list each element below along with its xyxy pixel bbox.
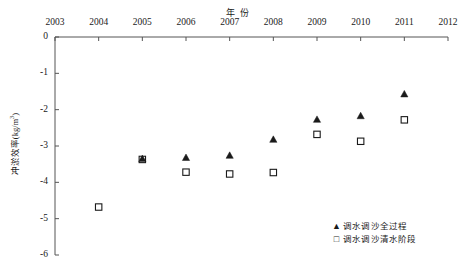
- legend-label-full-process: 调水调沙全过程: [343, 220, 407, 233]
- legend-item-full-process: ▲ 调水调沙全过程: [330, 220, 417, 233]
- data-point-marker-square: [401, 117, 407, 123]
- legend-item-clear-water-stage: □ 调水调沙清水阶段: [330, 233, 417, 246]
- data-point-marker-triangle: [182, 154, 189, 160]
- chart-legend: ▲ 调水调沙全过程 □ 调水调沙清水阶段: [330, 220, 417, 246]
- data-point-marker-triangle: [357, 112, 364, 118]
- data-point-marker-triangle: [270, 136, 277, 142]
- filled-triangle-icon: ▲: [330, 220, 343, 233]
- data-point-marker-triangle: [226, 152, 233, 158]
- data-point-marker-square: [226, 171, 232, 177]
- data-points-group: [95, 90, 407, 210]
- data-point-marker-square: [95, 204, 101, 210]
- data-point-marker-triangle: [313, 116, 320, 122]
- data-point-marker-square: [314, 131, 320, 137]
- open-square-icon: □: [330, 233, 343, 246]
- data-point-marker-triangle: [401, 90, 408, 96]
- data-point-marker-square: [357, 138, 363, 144]
- legend-label-clear-water-stage: 调水调沙清水阶段: [343, 233, 417, 246]
- chart-figure: 年 份 200320042005200620072008200920102011…: [0, 0, 476, 272]
- data-point-marker-square: [183, 169, 189, 175]
- data-point-marker-square: [270, 169, 276, 175]
